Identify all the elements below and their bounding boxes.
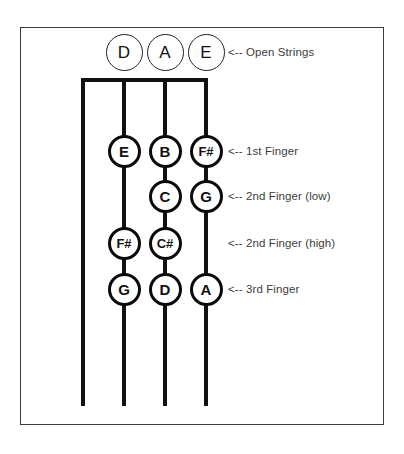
- note-second-finger-low-a-string: C: [149, 180, 182, 213]
- annotation-second-finger-high: <-- 2nd Finger (high): [228, 237, 335, 249]
- note-third-finger-d-string: G: [108, 273, 141, 306]
- note-open-strings-d-string: D: [106, 34, 143, 71]
- annotation-third-finger: <-- 3rd Finger: [228, 283, 299, 295]
- note-open-strings-a-string: A: [147, 34, 184, 71]
- fingerboard-diagram: DAEEBF#CGF#C#GDA <-- Open Strings<-- 1st…: [0, 0, 404, 454]
- note-first-finger-a-string: B: [149, 135, 182, 168]
- note-second-finger-low-e-string: G: [190, 180, 223, 213]
- note-third-finger-e-string: A: [190, 273, 223, 306]
- note-first-finger-d-string: E: [108, 135, 141, 168]
- annotation-open-strings: <-- Open Strings: [228, 46, 314, 58]
- annotation-second-finger-low: <-- 2nd Finger (low): [228, 190, 331, 202]
- note-second-finger-high-d-string: F#: [108, 227, 141, 260]
- note-third-finger-a-string: D: [149, 273, 182, 306]
- note-first-finger-e-string: F#: [190, 135, 223, 168]
- diagram-border: [20, 27, 384, 425]
- note-open-strings-e-string: E: [188, 34, 225, 71]
- annotation-first-finger: <-- 1st Finger: [228, 145, 298, 157]
- note-second-finger-high-a-string: C#: [149, 227, 182, 260]
